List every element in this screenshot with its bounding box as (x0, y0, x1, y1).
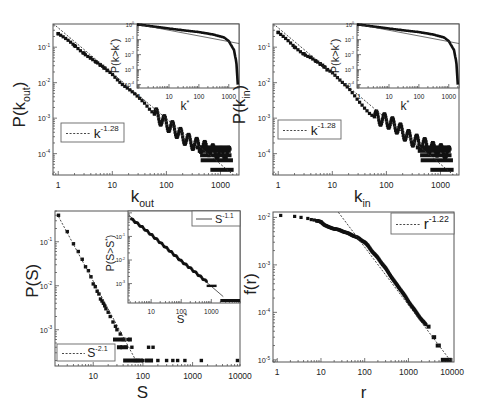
y-tick-label: 10-3 (125, 66, 134, 72)
data-point (145, 105, 148, 108)
x-tick-label: 1 (275, 367, 280, 377)
y-axis-label: P(S) (23, 264, 42, 298)
panel-d-rank-frequency: 11010010001000010-210-310-410-5r-1.22rf(… (241, 212, 464, 402)
data-point (82, 51, 85, 54)
inset-x-axis-label: k* (401, 98, 410, 113)
y-tick-label: 10-1 (345, 36, 354, 42)
x-tick-label: 1 (56, 180, 61, 190)
data-point (176, 359, 179, 362)
inset-y-axis-label: P(S>S*) (104, 235, 116, 272)
data-point (165, 359, 168, 362)
x-tick-label: 100 (358, 367, 372, 377)
data-point (99, 64, 102, 67)
data-band (200, 153, 231, 157)
data-point (279, 214, 282, 217)
y-tick-label: 10-3 (258, 114, 271, 123)
y-axis-label: P(kin) (230, 85, 252, 124)
data-point (173, 128, 176, 131)
y-tick-label: 10-2 (116, 257, 125, 263)
data-point (111, 320, 114, 323)
data-band (421, 158, 453, 162)
data-point (392, 121, 395, 124)
data-band (210, 168, 233, 172)
y-tick-label: 10-1 (258, 43, 271, 52)
inset-y-axis-label: P(k>k*) (329, 39, 341, 74)
x-tick-label: 10000 (228, 371, 252, 381)
data-point (73, 44, 76, 47)
data-band (420, 153, 451, 157)
data-band (145, 359, 153, 363)
y-tick-label: 10-2 (38, 78, 51, 87)
inset: 110100100010010-110-210-310-4P(k>k*)k* (329, 21, 459, 113)
x-tick-label: 100 (136, 371, 150, 381)
x-tick-label: 100 (413, 93, 424, 100)
y-tick-label: 10-4 (125, 81, 134, 87)
data-band (436, 344, 441, 348)
data-point (409, 134, 412, 137)
y-tick-label: 100 (126, 21, 134, 27)
x-tick-label: 10 (88, 371, 98, 381)
x-tick-label: 1000 (399, 367, 418, 377)
data-point (157, 114, 160, 117)
y-tick-label: 10-1 (116, 233, 125, 239)
y-tick-label: 10-1 (125, 36, 134, 42)
data-point (293, 215, 296, 218)
data-point (314, 60, 317, 63)
inset: 10100100010-110-210-3S-1.1P(S>S*)S* (104, 211, 240, 325)
y-tick-label: 10-3 (116, 280, 125, 286)
panel-b-kin-distribution: 110100100010-110-210-310-4k-1.2811010010… (230, 21, 459, 209)
data-point (353, 94, 356, 97)
data-point (358, 101, 361, 104)
data-point (57, 214, 60, 217)
inset-x-axis-label: S* (177, 312, 188, 325)
inset-data-point (205, 280, 207, 282)
data-point (299, 216, 302, 219)
data-point (57, 32, 60, 35)
y-tick-label: 10-1 (40, 237, 53, 246)
legend: k-1.28 (278, 120, 341, 139)
x-tick-label: 10 (108, 180, 118, 190)
x-tick-label: 1000 (211, 180, 230, 190)
data-point (157, 117, 160, 120)
y-tick-label: 10-2 (125, 51, 134, 57)
data-point (104, 307, 107, 310)
inset-data-band (220, 299, 240, 302)
data-point (189, 141, 192, 144)
figure: 110100100010-110-210-310-4k-1.2811010010… (0, 0, 478, 412)
y-tick-label: 10-3 (258, 261, 271, 270)
x-axis-label: kout (131, 187, 154, 209)
data-band (430, 168, 453, 172)
legend: r-1.22 (391, 213, 454, 234)
x-tick-label: 1000 (204, 308, 219, 315)
x-tick-label: 1 (276, 180, 281, 190)
x-tick-label: 10 (385, 93, 393, 100)
data-band (427, 325, 431, 329)
data-point (115, 328, 118, 331)
y-tick-label: 10-4 (345, 81, 354, 87)
x-axis-label: S (137, 383, 148, 402)
data-point (143, 102, 146, 105)
data-band (120, 345, 128, 349)
x-tick-label: 1 (137, 93, 141, 100)
x-tick-label: 100 (379, 180, 393, 190)
data-point (277, 31, 280, 34)
data-point (417, 139, 420, 142)
data-point (102, 66, 105, 69)
x-tick-label: 10 (165, 93, 173, 100)
x-axis-label: r (361, 383, 367, 402)
y-tick-label: 10-2 (345, 51, 354, 57)
legend: k-1.28 (61, 123, 124, 142)
inset: 110100100010010-110-210-310-4P(k>k*)k* (109, 21, 239, 113)
y-tick-label: 100 (346, 21, 354, 27)
data-point (310, 218, 313, 221)
fit-line (59, 217, 136, 360)
data-point (377, 116, 380, 119)
data-point (171, 359, 174, 362)
inset-data-band (207, 285, 217, 287)
data-point (147, 346, 150, 349)
data-point (302, 52, 305, 55)
data-band (416, 145, 450, 149)
x-tick-label: 1000 (183, 371, 202, 381)
y-tick-label: 10-5 (258, 356, 271, 365)
x-tick-label: 10 (148, 308, 156, 315)
